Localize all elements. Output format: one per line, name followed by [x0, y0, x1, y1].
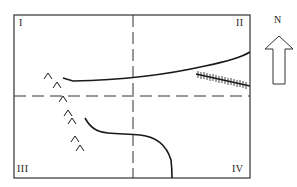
lower-curve [85, 118, 172, 178]
chevron-icon [44, 73, 52, 79]
quadrant-label-IV: IV [232, 163, 244, 174]
hatched-line [196, 71, 250, 89]
chevron-icon [53, 82, 61, 88]
chevron-icon [71, 136, 79, 142]
quadrant-label-II: II [236, 17, 244, 28]
chevron-icon [76, 145, 84, 151]
chevron-icon [64, 110, 72, 116]
chevron-icon [68, 118, 76, 124]
north-label: N [274, 14, 281, 25]
north-arrow-icon [265, 36, 293, 84]
diagram-canvas [0, 0, 297, 187]
quadrant-label-I: I [19, 17, 23, 28]
chevron-icon [59, 96, 67, 102]
chevron-chain [44, 73, 84, 151]
quadrant-label-III: III [17, 163, 29, 174]
